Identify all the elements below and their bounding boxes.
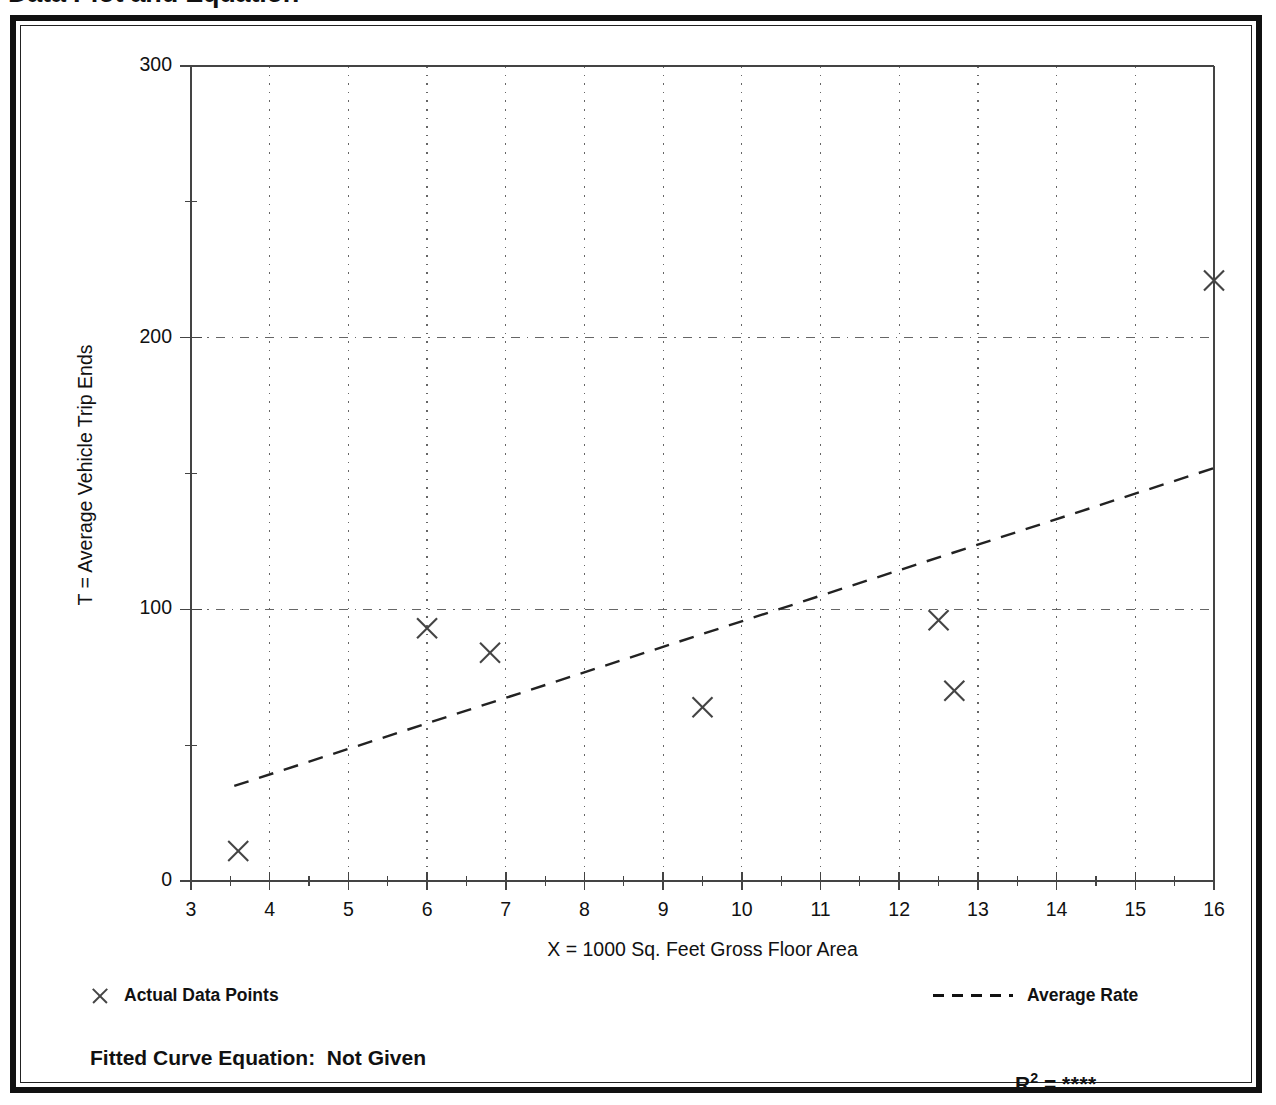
x-tick-label: 11 [801,898,841,921]
legend-label-actual-data-points: Actual Data Points [124,985,279,1006]
x-tick-label: 15 [1115,898,1155,921]
chart-legend: Actual Data Points Average Rate [0,985,1276,1019]
data-point-marker [929,610,949,630]
x-tick-label: 14 [1037,898,1077,921]
y-tick-label: 300 [112,53,172,76]
x-tick-label: 12 [879,898,919,921]
x-tick-label: 6 [407,898,447,921]
r-squared-exponent: 2 [1030,1070,1038,1086]
y-tick-label: 0 [112,868,172,891]
data-point-marker [944,681,964,701]
y-tick-label: 100 [112,596,172,619]
x-tick-label: 9 [643,898,683,921]
vertical-gridlines [270,66,1136,881]
x-marker-icon [90,986,110,1006]
x-tick-label: 4 [250,898,290,921]
horizontal-gridlines [191,338,1214,610]
r-squared-value: R2 = **** [980,1046,1097,1105]
x-tick-label: 7 [486,898,526,921]
x-tick-label: 16 [1194,898,1234,921]
y-tick-label: 200 [112,325,172,348]
chart-canvas: 0100200300 345678910111213141516 T = Ave… [0,0,1276,1105]
fitted-curve-equation: Fitted Curve Equation: Not Given [90,1046,426,1070]
legend-item-actual-data-points: Actual Data Points [90,985,279,1006]
legend-label-average-rate: Average Rate [1027,985,1138,1006]
legend-item-average-rate: Average Rate [933,985,1138,1006]
data-point-marker [480,643,500,663]
chart-footer: Fitted Curve Equation: Not Given R2 = **… [0,1046,1276,1082]
average-rate-trendline [234,468,1214,786]
x-tick-label: 10 [722,898,762,921]
data-point-marker [693,697,713,717]
x-tick-label: 5 [328,898,368,921]
data-point-marker [417,618,437,638]
r-squared-stars: **** [1062,1072,1097,1095]
x-tick-label: 13 [958,898,998,921]
x-axis-title: X = 1000 Sq. Feet Gross Floor Area [191,938,1214,961]
data-point-markers [228,271,1224,862]
x-tick-label: 3 [171,898,211,921]
r-squared-label: R [1015,1072,1030,1095]
r-squared-equals-sign: = [1038,1072,1062,1095]
axis-lines [191,66,1214,881]
data-point-marker [228,841,248,861]
dashed-line-icon [933,994,1013,997]
y-axis-title: T = Average Vehicle Trip Ends [74,195,104,755]
x-tick-label: 8 [564,898,604,921]
